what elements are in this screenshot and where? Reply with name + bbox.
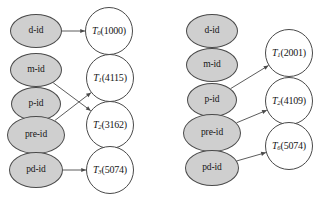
entity-node-label: pre-id: [25, 130, 47, 140]
entity-node[interactable]: d-id: [10, 14, 62, 48]
graph-edge: [63, 168, 86, 172]
transaction-node[interactable]: T6(5074): [265, 122, 313, 170]
entity-node[interactable]: pre-id: [183, 114, 241, 152]
transaction-node-label: T1(2001): [272, 48, 306, 59]
edge-arrowhead: [86, 93, 91, 98]
transaction-value: (4115): [102, 72, 127, 83]
transaction-node-label: T2(4109): [272, 96, 306, 107]
entity-node-label: p-id: [205, 95, 220, 105]
transaction-node-label: T3(5074): [93, 165, 127, 176]
graph-edge: [236, 110, 266, 123]
edge-line: [236, 110, 266, 123]
entity-node-label: m-id: [203, 60, 221, 70]
figure-canvas: d-idm-idp-idpre-idpd-idT0(1000)T1(4115)T…: [0, 0, 329, 199]
entity-node-label: d-id: [205, 26, 220, 36]
entity-node[interactable]: p-id: [187, 83, 237, 117]
transaction-node[interactable]: T2(4109): [265, 77, 313, 125]
transaction-node-label: T2(3162): [93, 120, 127, 131]
transaction-node[interactable]: T1(2001): [265, 29, 313, 77]
entity-node[interactable]: pd-id: [9, 152, 63, 188]
transaction-node-label: T6(5074): [272, 141, 306, 152]
edge-line: [237, 153, 266, 161]
transaction-value: (1000): [101, 25, 126, 36]
transaction-value: (3162): [102, 119, 127, 130]
transaction-value: (4109): [281, 95, 306, 106]
transaction-node[interactable]: T3(5074): [86, 146, 134, 194]
entity-node-label: pd-id: [202, 163, 222, 173]
transaction-node[interactable]: T0(1000): [85, 7, 133, 55]
entity-node[interactable]: pre-id: [7, 116, 65, 154]
transaction-node-label: T0(1000): [92, 26, 126, 37]
transaction-value: (2001): [281, 47, 306, 58]
entity-node-label: pd-id: [26, 165, 46, 175]
entity-node[interactable]: m-id: [186, 48, 238, 82]
entity-node[interactable]: pd-id: [185, 150, 239, 186]
entity-node-label: d-id: [29, 26, 44, 36]
transaction-node-label: T1(4115): [93, 73, 127, 84]
entity-node-label: m-id: [27, 65, 45, 75]
graph-edge: [237, 152, 266, 161]
graph-edge: [62, 29, 85, 33]
transaction-node[interactable]: T2(3162): [86, 101, 134, 149]
entity-node[interactable]: m-id: [10, 53, 62, 87]
entity-node[interactable]: d-id: [186, 14, 238, 48]
entity-node-label: pre-id: [201, 128, 223, 138]
transaction-value: (5074): [102, 164, 127, 175]
entity-node-label: p-id: [29, 99, 44, 109]
transaction-value: (5074): [281, 140, 306, 151]
edge-arrowhead: [263, 66, 268, 70]
transaction-node[interactable]: T1(4115): [86, 54, 134, 102]
